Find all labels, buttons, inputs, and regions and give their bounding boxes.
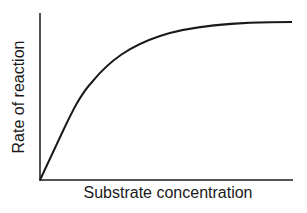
x-axis-label: Substrate concentration (48, 184, 288, 202)
chart-plot (0, 0, 307, 213)
y-axis-label: Rate of reaction (10, 41, 28, 154)
rate-curve (40, 22, 292, 180)
